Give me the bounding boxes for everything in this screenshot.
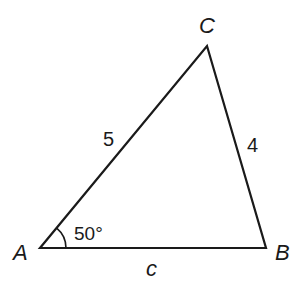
vertex-label-a: A [11, 240, 28, 265]
triangle-abc [40, 46, 266, 248]
triangle-diagram: A B C 5 4 c 50° [0, 0, 297, 292]
vertex-label-c: C [199, 13, 215, 38]
angle-label-a: 50° [74, 223, 103, 244]
side-label-ab: c [146, 256, 157, 281]
side-label-bc: 4 [247, 134, 258, 156]
vertex-label-b: B [275, 240, 290, 265]
angle-a-arc [57, 228, 66, 248]
side-label-ac: 5 [103, 128, 114, 150]
